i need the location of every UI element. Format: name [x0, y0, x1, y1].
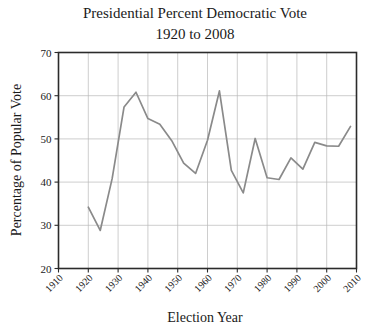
x-tick-label: 1940	[132, 272, 154, 294]
y-tick-label: 60	[41, 90, 53, 102]
gridlines	[59, 53, 357, 269]
y-tick-label: 40	[41, 176, 53, 188]
x-tick-label: 1910	[43, 272, 65, 294]
y-tick-label: 30	[41, 219, 53, 231]
x-axis-title: Election Year	[167, 310, 243, 325]
y-tick-label: 50	[41, 133, 53, 145]
x-tick-label: 1960	[192, 272, 214, 294]
x-tick-label: 1990	[281, 272, 303, 294]
x-tick-label: 1930	[103, 272, 125, 294]
chart-subtitle: 1920 to 2008	[155, 26, 234, 42]
x-tick-label: 1970	[222, 272, 244, 294]
y-tick-label: 20	[41, 263, 53, 275]
presidential-vote-line-chart: Presidential Percent Democratic Vote 192…	[0, 0, 383, 329]
y-axis-tick-labels: 706050403020	[41, 47, 53, 275]
y-axis-title: Percentage of Popular Vote	[9, 84, 24, 236]
x-tick-label: 1950	[162, 272, 184, 294]
tick-marks	[55, 53, 357, 273]
x-tick-label: 1920	[73, 272, 95, 294]
y-tick-label: 70	[41, 47, 53, 59]
x-tick-label: 1980	[252, 272, 274, 294]
x-axis-tick-labels: 1910192019301940195019601970198019902000…	[43, 272, 363, 294]
chart-figure: Presidential Percent Democratic Vote 192…	[0, 0, 383, 329]
chart-title: Presidential Percent Democratic Vote	[83, 5, 307, 21]
vote-percentage-line	[88, 91, 350, 231]
x-tick-label: 2000	[311, 272, 333, 294]
x-tick-label: 2010	[341, 272, 363, 294]
